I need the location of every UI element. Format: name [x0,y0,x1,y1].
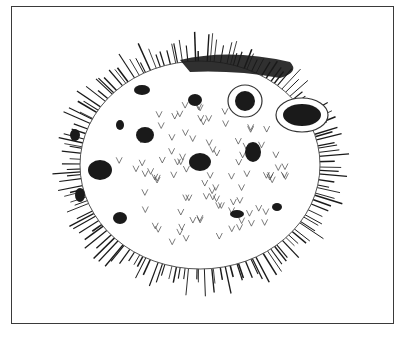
dark-spot [116,120,124,130]
dark-spot [113,212,127,224]
porcupinefish-illustration [0,0,406,339]
dark-spot [75,188,85,202]
dark-spot [136,127,154,143]
dark-spot [88,160,112,180]
dark-spot [70,129,80,141]
dark-spot [188,94,202,106]
eye-pupil [235,91,255,111]
dark-spot [245,142,261,162]
dark-spot [189,153,211,171]
eye-pupil [283,104,321,126]
dark-spot [134,85,150,95]
dark-spot [230,210,244,218]
dark-spot [272,203,282,211]
